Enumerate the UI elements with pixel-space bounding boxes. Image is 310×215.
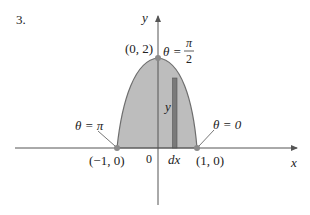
- problem-number: 3.: [16, 12, 26, 27]
- origin-label: 0: [146, 152, 152, 166]
- area-strip: [173, 78, 178, 148]
- strip-height-label: y: [163, 99, 171, 114]
- theta-top-numerator: π: [186, 36, 193, 50]
- y-axis-label: y: [140, 10, 148, 25]
- theta-pi-pointer: [98, 131, 115, 146]
- left-point-label: (−1, 0): [89, 153, 125, 168]
- theta-pi-label: θ = π: [75, 118, 104, 133]
- strip-width-label: dx: [168, 152, 181, 167]
- top-point-label: (0, 2): [125, 41, 153, 56]
- point-top: [155, 55, 161, 61]
- theta-zero-pointer: [199, 130, 214, 146]
- theta-zero-label: θ = 0: [213, 117, 242, 132]
- shaded-region: [117, 58, 197, 148]
- theta-top-prefix: θ =: [163, 44, 181, 59]
- theta-top-denominator: 2: [186, 52, 192, 66]
- polar-area-diagram: 3. y x 0 (0, 2) (−1, 0) (1, 0) θ = π 2 θ…: [0, 0, 310, 215]
- x-axis-label: x: [290, 155, 297, 170]
- right-point-label: (1, 0): [196, 153, 224, 168]
